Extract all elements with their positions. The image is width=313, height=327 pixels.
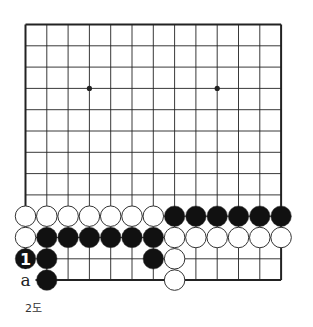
- black-stone: [122, 227, 143, 248]
- black-stone: [58, 227, 79, 248]
- white-stone: [164, 249, 185, 270]
- black-stone: [100, 227, 121, 248]
- star-point: [215, 86, 220, 91]
- white-stone: [186, 227, 207, 248]
- move-number: 1: [20, 250, 31, 269]
- white-stone: [37, 206, 58, 227]
- black-stone: [143, 249, 164, 270]
- star-point: [87, 86, 92, 91]
- white-stone: [122, 206, 143, 227]
- white-stone: [250, 227, 271, 248]
- white-stone: [58, 206, 79, 227]
- black-stone: [37, 270, 58, 291]
- black-stone: [271, 206, 292, 227]
- white-stone: [164, 270, 185, 291]
- white-stone: [79, 206, 100, 227]
- white-stone: [164, 227, 185, 248]
- black-stone: [37, 249, 58, 270]
- white-stone: [15, 227, 36, 248]
- white-stone: [228, 227, 249, 248]
- point-label: a: [20, 270, 30, 290]
- black-stone: 1: [15, 249, 36, 270]
- white-stone: [207, 227, 228, 248]
- black-stone: [228, 206, 249, 227]
- black-stone: [186, 206, 207, 227]
- black-stone: [250, 206, 271, 227]
- black-stone: [37, 227, 58, 248]
- white-stone: [15, 206, 36, 227]
- black-stone: [143, 227, 164, 248]
- white-stone: [143, 206, 164, 227]
- black-stone: [79, 227, 100, 248]
- go-board-diagram: 1 a: [0, 0, 313, 327]
- white-stone: [271, 227, 292, 248]
- black-stone: [164, 206, 185, 227]
- diagram-caption: 2도: [25, 299, 42, 315]
- point-labels: a: [16, 269, 36, 291]
- black-stone: [207, 206, 228, 227]
- white-stone: [100, 206, 121, 227]
